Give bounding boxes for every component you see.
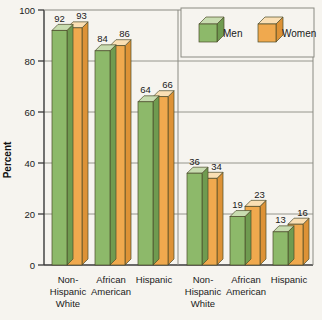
bar-men (230, 211, 251, 265)
category-label: Hispanic (50, 286, 87, 297)
bar-men-front (95, 51, 110, 265)
value-label-women: 66 (162, 79, 173, 90)
category-label: American (91, 286, 131, 297)
value-label-men: 84 (97, 33, 108, 44)
bar-women-side (260, 200, 266, 265)
category-label: Non- (193, 274, 214, 285)
bar-men-front (138, 102, 153, 265)
bar-men-side (110, 45, 116, 265)
value-label-women: 93 (76, 10, 87, 21)
value-label-men: 13 (275, 214, 286, 225)
bar-men-front (273, 232, 288, 265)
bar-men (95, 45, 116, 265)
y-tick-label: 40 (24, 158, 35, 169)
bar-women-side (168, 91, 174, 265)
y-tick-label: 60 (24, 107, 35, 118)
cube-icon-green-front (199, 24, 217, 42)
value-label-men: 64 (140, 84, 151, 95)
y-axis-title: Percent (2, 141, 13, 178)
value-label-women: 34 (211, 161, 222, 172)
bar-chart: 020406080100 929384866466363419231316 No… (0, 0, 322, 320)
value-label-women: 16 (297, 207, 308, 218)
bar-women-side (217, 172, 223, 265)
value-label-men: 19 (232, 199, 243, 210)
bar-women-side (303, 218, 309, 265)
bar-men-side (202, 167, 208, 265)
category-label: Hispanic (136, 274, 173, 285)
category-label: Non- (58, 274, 79, 285)
category-label: White (191, 298, 215, 309)
value-label-women: 86 (119, 28, 130, 39)
category-label: Hispanic (185, 286, 222, 297)
bar-men-front (52, 30, 67, 265)
bar-men (187, 167, 208, 265)
value-label-women: 23 (254, 189, 265, 200)
category-label: African (96, 274, 126, 285)
category-label: American (226, 286, 266, 297)
bar-men-side (67, 24, 73, 265)
category-label: African (231, 274, 261, 285)
bar-men (138, 96, 159, 265)
legend-label-women: Women (282, 28, 316, 39)
y-tick-label: 80 (24, 56, 35, 67)
bar-men-side (288, 226, 294, 265)
bar-men-side (245, 211, 251, 265)
y-tick-label: 100 (19, 5, 35, 16)
bar-women-side (82, 22, 88, 265)
category-label: Hispanic (271, 274, 308, 285)
bar-men-front (230, 217, 245, 265)
cube-icon-orange-front (258, 24, 276, 42)
bar-men (273, 226, 294, 265)
bar-men-side (153, 96, 159, 265)
value-label-men: 92 (54, 13, 65, 24)
legend: MenWomen (181, 8, 316, 57)
category-label: White (56, 298, 80, 309)
bar-men-front (187, 173, 202, 265)
y-tick-label: 0 (30, 260, 35, 271)
y-tick-label: 20 (24, 209, 35, 220)
chart-canvas: 020406080100 929384866466363419231316 No… (0, 0, 322, 320)
bar-women-side (125, 40, 131, 265)
value-label-men: 36 (189, 156, 200, 167)
legend-label-men: Men (223, 28, 242, 39)
bar-men (52, 24, 73, 265)
